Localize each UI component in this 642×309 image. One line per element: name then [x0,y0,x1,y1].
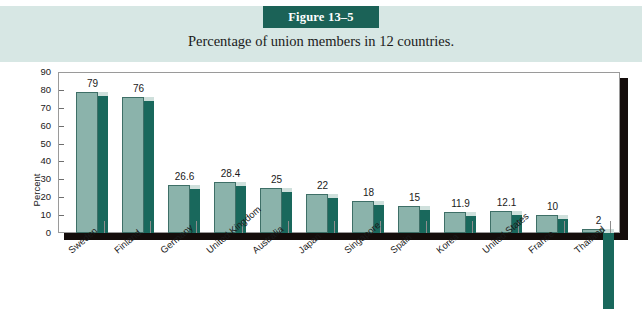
bar-side-face [327,198,338,233]
bar-side-face [419,210,430,233]
y-axis-tick-mark [59,215,64,216]
y-axis-tick-label: 10 [25,210,51,220]
bar-front-face [306,194,328,233]
bar-top-face [189,185,200,189]
bar-value-label: 79 [69,79,117,89]
bar-value-label: 12.1 [483,198,531,208]
x-axis-tick-mark [426,221,427,233]
bar-top-face [281,188,292,192]
bar-front-face [444,212,466,233]
y-axis-tick-mark [59,144,64,145]
bar-side-face [143,101,154,233]
bar-side-face [557,219,568,233]
bar-top-face [465,212,476,216]
bar-side-face [465,216,476,233]
bar-side-face [603,233,614,309]
bar-top-face [143,97,154,101]
y-axis-tick-label: 50 [25,139,51,149]
x-axis-tick-mark [104,221,105,233]
y-axis-tick-label: 20 [25,192,51,202]
y-axis-tick-mark [59,90,64,91]
y-axis-tick-label: 0 [25,228,51,238]
x-axis-tick-mark [196,221,197,233]
x-axis-tick-mark [334,221,335,233]
bar-top-face [557,215,568,219]
y-axis-tick-mark [59,126,64,127]
bar-value-label: 11.9 [437,199,485,209]
figure-caption: Percentage of union members in 12 countr… [0,33,642,50]
chart-area: Percent 9080706050403020100 797626.628.4… [0,62,642,309]
x-axis-tick-mark [564,221,565,233]
y-axis-tick-label: 30 [25,174,51,184]
bar-value-label: 26.6 [161,172,209,182]
bar-front-face [398,206,420,233]
bar-value-label: 76 [115,84,163,94]
bar-side-face [97,96,108,233]
bar-value-label: 15 [391,193,439,203]
bar-value-label: 10 [529,202,577,212]
figure-number-badge: Figure 13–5 [263,6,379,28]
bar-value-label: 18 [345,188,393,198]
x-axis-tick-mark [150,221,151,233]
bar-top-face [373,201,384,205]
x-axis-tick-mark [610,221,611,233]
x-axis-tick-mark [472,221,473,233]
bar-top-face [97,92,108,96]
figure-header-band: Figure 13–5 Percentage of union members … [0,0,642,62]
bar-value-label: 22 [299,181,347,191]
y-axis-tick-label: 70 [25,103,51,113]
bar-side-face [281,192,292,233]
y-axis-tick-mark [59,161,64,162]
bar-top-face [235,182,246,186]
y-axis-tick-mark [59,179,64,180]
chart-3d-right-panel [620,78,628,239]
figure-number-label: Figure 13–5 [288,10,354,25]
bar-value-label: 25 [253,175,301,185]
x-axis-tick-mark [288,221,289,233]
y-axis-tick-label: 80 [25,85,51,95]
bar-front-face [122,97,144,233]
bar-front-face [76,92,98,233]
y-axis-tick-mark [59,108,64,109]
y-axis-tick-label: 40 [25,156,51,166]
bar-top-face [419,206,430,210]
bar-value-label: 28.4 [207,169,255,179]
y-axis-tick-label: 60 [25,121,51,131]
y-axis-tick-mark [59,197,64,198]
bar-top-face [327,194,338,198]
figure-container: Figure 13–5 Percentage of union members … [0,0,642,309]
y-axis-tick-label: 90 [25,67,51,77]
